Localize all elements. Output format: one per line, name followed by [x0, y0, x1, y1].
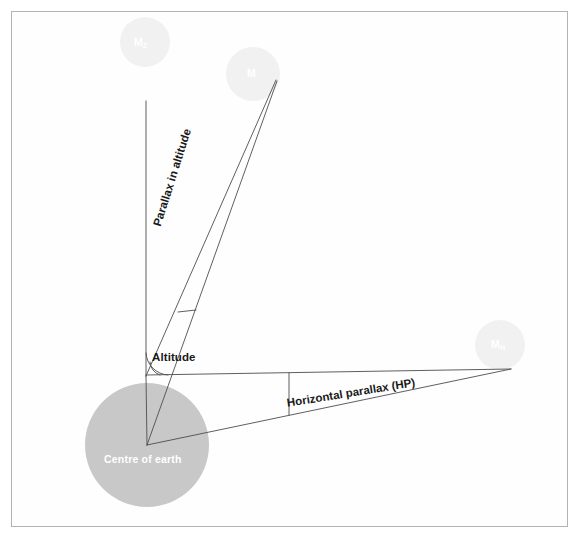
- moon-horizon-label-main: M: [491, 338, 500, 350]
- altitude-label: Altitude: [152, 351, 196, 363]
- diagram-svg: [0, 0, 582, 537]
- observer-to-moon-line: [146, 80, 276, 376]
- moon-label-main: M: [247, 67, 256, 79]
- moon-horizon-label: MH: [491, 338, 505, 350]
- earth-centre-to-horizon-moon-line: [147, 369, 511, 445]
- earth-centre-to-moon-line: [147, 81, 277, 445]
- moon-zenith-label-main: M: [134, 36, 143, 48]
- moon-horizon-label-subscript: H: [500, 343, 505, 352]
- centre-of-earth-label: Centre of earth: [104, 453, 182, 465]
- parallax-tick: [178, 310, 196, 312]
- moon-zenith-label: MZ: [134, 36, 147, 48]
- horizon-line: [146, 369, 511, 375]
- moon-zenith-label-subscript: Z: [143, 41, 148, 50]
- figure-root: Altitude Parallax in altitude Horizontal…: [0, 0, 582, 537]
- moon-label: M: [247, 67, 256, 79]
